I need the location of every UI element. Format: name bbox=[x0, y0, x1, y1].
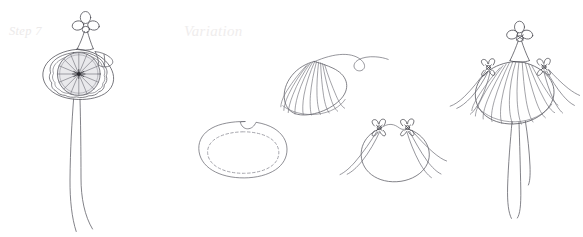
variation-neck-cone bbox=[510, 41, 529, 62]
top-bow-icon bbox=[71, 12, 100, 33]
fan-outline bbox=[284, 62, 347, 115]
illustration-page: Step 7 Variation bbox=[0, 0, 583, 237]
variation-label: Variation bbox=[184, 23, 243, 40]
variation-right-bow-icon bbox=[537, 58, 550, 75]
gathered-rosette bbox=[57, 53, 100, 96]
fan-pleat-lines bbox=[281, 62, 345, 115]
figure-fabric-circle bbox=[199, 121, 287, 177]
figure-tied-pouch bbox=[340, 119, 447, 182]
fabric-circle-outline bbox=[199, 121, 287, 177]
illustration-canvas bbox=[0, 0, 583, 237]
figure-finished-ornament bbox=[43, 12, 114, 232]
figure-gathered-fan bbox=[281, 54, 388, 115]
variation-dome-base-curve bbox=[477, 104, 552, 122]
pouch-body bbox=[361, 129, 429, 182]
figure-variation-ornament bbox=[450, 21, 579, 218]
running-stitch-line bbox=[208, 132, 279, 174]
pouch-ties bbox=[340, 131, 447, 178]
variation-top-bow-icon bbox=[506, 21, 534, 41]
step-label: Step 7 bbox=[9, 24, 42, 39]
variation-left-bow-icon bbox=[481, 59, 494, 76]
neck-cone bbox=[77, 32, 93, 51]
streamer-tails bbox=[70, 99, 93, 232]
variation-streamers bbox=[508, 121, 531, 218]
variation-side-ties bbox=[450, 70, 579, 115]
